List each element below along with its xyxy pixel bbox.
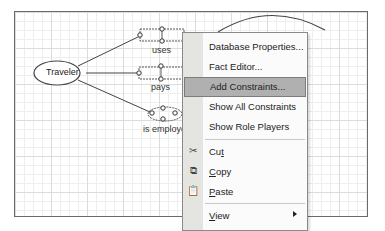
menu-item-show-all-constraints[interactable]: Show All Constraints (183, 97, 307, 117)
scissors-icon: ✂ (187, 145, 199, 157)
menu-item-paste[interactable]: 📋 Paste (183, 182, 307, 202)
submenu-arrow-icon (293, 230, 297, 231)
fact-type-pays-label[interactable]: pays (151, 82, 170, 92)
submenu-arrow-icon (293, 211, 297, 217)
context-menu: Database Properties... Fact Editor... Ad… (182, 32, 308, 231)
entity-traveler-label[interactable]: Traveler (46, 67, 79, 77)
paste-icon: 📋 (187, 185, 199, 197)
menu-separator (205, 139, 305, 140)
menu-item-copy[interactable]: ⧉ Copy (183, 162, 307, 182)
menu-item-show-role-players[interactable]: Show Role Players (183, 117, 307, 137)
menu-item-database-properties[interactable]: Database Properties... (183, 37, 307, 57)
menu-item-add-constraints[interactable]: Add Constraints... (184, 77, 306, 97)
menu-item-format[interactable]: Format (183, 225, 307, 231)
copy-icon: ⧉ (187, 165, 199, 177)
menu-item-fact-editor[interactable]: Fact Editor... (183, 57, 307, 77)
menu-item-cut[interactable]: ✂ Cut (183, 142, 307, 162)
fact-type-uses-label[interactable]: uses (152, 45, 171, 55)
menu-separator (205, 203, 305, 204)
menu-item-view[interactable]: View (183, 206, 307, 226)
